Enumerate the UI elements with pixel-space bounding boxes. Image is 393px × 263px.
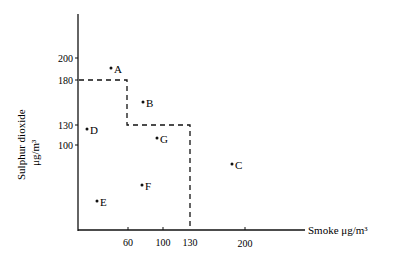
y-tick-label: 100 [58, 140, 73, 151]
x-tick-label: 60 [123, 237, 133, 248]
point-label-d: D [90, 124, 98, 136]
y-tick-label: 200 [58, 53, 73, 64]
point-label-f: F [145, 180, 151, 192]
x-tick-label: 130 [183, 237, 198, 248]
scatter-chart: 200 180 130 100 60 100 130 200 A B C D E… [0, 0, 393, 263]
x-tick-label: 100 [156, 237, 171, 248]
y-tick-label: 180 [58, 75, 73, 86]
y-tick-label: 130 [58, 120, 73, 131]
point-label-g: G [160, 133, 168, 145]
point-label-a: A [114, 63, 122, 75]
threshold-boundary [79, 80, 190, 230]
x-tick-label: 200 [238, 238, 253, 249]
data-points: A B C D E F G [86, 63, 243, 208]
y-axis-label: Sulphur dioxide [15, 109, 27, 180]
point-label-b: B [146, 97, 153, 109]
y-axis-unit: μg/m³ [29, 139, 41, 166]
point-label-c: C [235, 159, 242, 171]
point-label-e: E [100, 196, 107, 208]
x-axis-label: Smoke μg/m³ [308, 224, 368, 236]
y-ticks: 200 180 130 100 [58, 53, 78, 151]
